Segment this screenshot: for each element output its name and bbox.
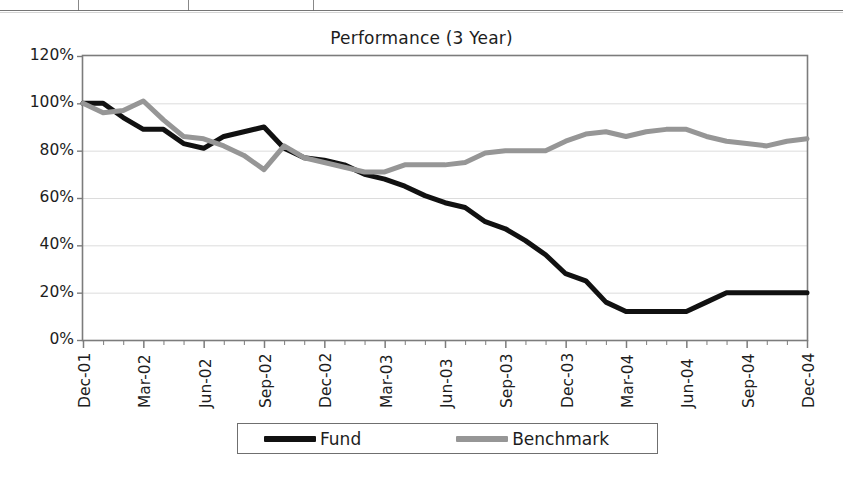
series-line-benchmark: [83, 101, 807, 172]
x-axis-tick-label: Dec-04: [800, 353, 818, 408]
legend-swatch-fund: [264, 436, 316, 442]
chart-legend: Fund Benchmark: [237, 423, 658, 454]
x-axis-tick-label: Dec-01: [76, 353, 94, 408]
x-axis-tick-label: Sep-04: [740, 353, 758, 408]
performance-line-chart: Performance (3 Year) 0%20%40%60%80%100%1…: [0, 0, 843, 478]
y-axis-tick-label: 20%: [14, 283, 74, 301]
x-axis-tick-label: Sep-02: [257, 353, 275, 408]
legend-item-benchmark: Benchmark: [456, 429, 609, 449]
x-axis-tick-label: Jun-03: [438, 358, 456, 408]
x-axis-tick-label: Mar-02: [136, 354, 154, 408]
x-axis-tick-label: Jun-04: [679, 358, 697, 408]
y-axis-tick-label: 80%: [14, 141, 74, 159]
legend-label-fund: Fund: [320, 429, 361, 449]
x-axis-tick-label: Mar-04: [619, 354, 637, 408]
y-axis-tick-label: 0%: [14, 330, 74, 348]
x-axis-tick-label: Dec-02: [317, 353, 335, 408]
y-axis-tick-label: 40%: [14, 235, 74, 253]
y-axis-tick-label: 100%: [14, 93, 74, 111]
y-axis-tick-label: 60%: [14, 188, 74, 206]
plot-area: [0, 0, 843, 478]
x-axis-tick-label: Dec-03: [559, 353, 577, 408]
data-series: [83, 101, 807, 312]
y-axis-tick-label: 120%: [14, 46, 74, 64]
x-axis-tick-label: Mar-03: [378, 354, 396, 408]
x-axis-tick-label: Sep-03: [498, 353, 516, 408]
legend-item-fund: Fund: [264, 429, 361, 449]
legend-swatch-benchmark: [456, 436, 508, 442]
x-axis-tick-label: Jun-02: [197, 358, 215, 408]
legend-label-benchmark: Benchmark: [512, 429, 609, 449]
